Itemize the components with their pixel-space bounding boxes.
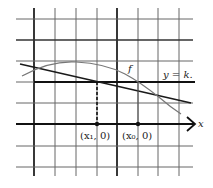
x-axis-label: x bbox=[198, 119, 204, 129]
point-x1-label: (x₁, 0) bbox=[80, 131, 110, 141]
point-x0-label: (x₀, 0) bbox=[122, 131, 152, 141]
grid-horizontal-lines bbox=[16, 19, 193, 167]
curve-label-f: f bbox=[128, 64, 132, 74]
diagram-canvas bbox=[0, 0, 213, 188]
point-x1 bbox=[95, 122, 99, 126]
level-line-label: y = k. bbox=[163, 70, 193, 80]
grid-vertical-lines bbox=[34, 8, 179, 176]
point-x0 bbox=[136, 122, 140, 126]
x-axis bbox=[16, 117, 195, 131]
